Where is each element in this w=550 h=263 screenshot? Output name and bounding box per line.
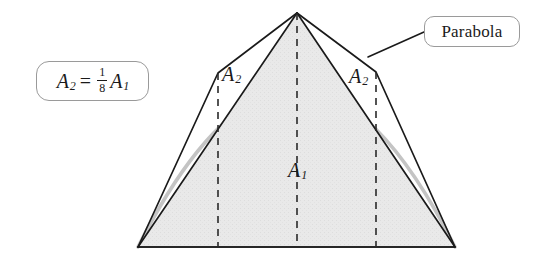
parabola-callout-label: Parabola [441,22,502,42]
area-formula: A2 = 1 8 A1 [57,67,129,95]
parabola-area-figure: A2 = 1 8 A1 Parabola A2 A2 A1 [0,0,550,263]
formula-lhs-subscript: 2 [70,80,76,92]
formula-operator: = [80,71,91,91]
fraction-numerator: 1 [97,66,107,79]
fraction-denominator: 8 [97,82,107,95]
parabola-leader-line [368,32,424,57]
parabola-callout: Parabola [424,16,520,47]
formula-rhs-symbol: A [110,71,122,91]
formula-fraction: 1 8 [97,66,107,94]
formula-callout: A2 = 1 8 A1 [36,61,149,101]
formula-lhs-symbol: A [57,71,69,91]
formula-rhs-subscript: 1 [123,80,129,92]
